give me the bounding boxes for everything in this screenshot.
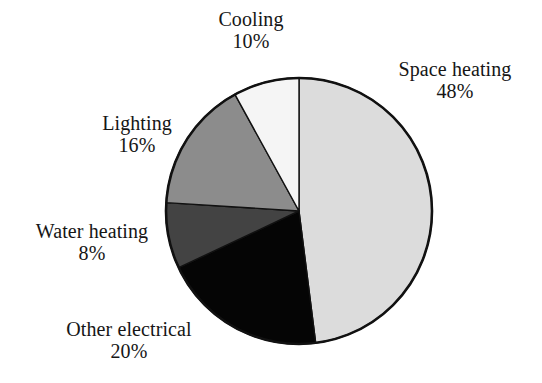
slice-label-water-heating: Water heating 8% [8, 220, 176, 265]
slice-label-space-heating-value: 48% [372, 80, 538, 102]
slice-label-other-electrical-value: 20% [36, 340, 222, 362]
slice-label-cooling-name: Cooling [176, 8, 326, 30]
pie-chart-figure: Cooling 10% Space heating 48% Lighting 1… [0, 0, 542, 383]
pie-chart-svg [164, 76, 434, 346]
slice-label-cooling-value: 10% [176, 30, 326, 52]
slice-label-water-heating-value: 8% [8, 242, 176, 264]
pie-slice-space-heating[interactable] [299, 78, 432, 343]
slice-label-other-electrical: Other electrical 20% [36, 318, 222, 363]
pie-slices [166, 78, 432, 344]
slice-label-lighting: Lighting 16% [72, 112, 202, 157]
slice-label-space-heating-name: Space heating [372, 58, 538, 80]
slice-label-water-heating-name: Water heating [8, 220, 176, 242]
slice-label-other-electrical-name: Other electrical [36, 318, 222, 340]
pie-chart-canvas [164, 76, 434, 346]
slice-label-lighting-value: 16% [72, 134, 202, 156]
slice-label-space-heating: Space heating 48% [372, 58, 538, 103]
slice-label-lighting-name: Lighting [72, 112, 202, 134]
slice-label-cooling: Cooling 10% [176, 8, 326, 53]
